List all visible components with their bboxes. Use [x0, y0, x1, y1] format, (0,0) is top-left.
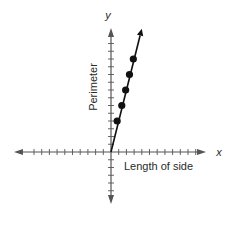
x-axis-letter: x	[215, 146, 222, 158]
y-axis-down-arrow-icon	[108, 195, 114, 204]
data-series	[111, 29, 143, 152]
data-point	[122, 86, 129, 93]
chart: y x Perimeter Length of side	[0, 0, 235, 228]
x-axis-label: Length of side	[124, 160, 193, 172]
data-point	[118, 102, 125, 109]
y-axis-up-arrow-icon	[108, 28, 114, 37]
data-point	[114, 117, 121, 124]
data-point	[130, 55, 137, 62]
y-axis-letter: y	[104, 9, 112, 21]
y-axis-label: Perimeter	[87, 63, 99, 111]
data-point	[126, 71, 133, 78]
axes	[14, 28, 206, 204]
series-arrow-icon	[137, 29, 143, 37]
x-axis-right-arrow-icon	[197, 149, 206, 155]
x-axis-left-arrow-icon	[14, 149, 23, 155]
series-line	[111, 36, 140, 152]
chart-canvas: y x Perimeter Length of side	[0, 0, 235, 228]
